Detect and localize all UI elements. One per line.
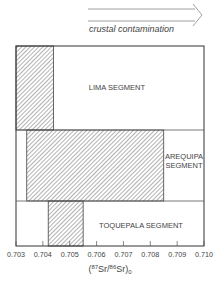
segment-label: AREQUIPASEGMENT (165, 152, 203, 170)
segment-bands: LIMA SEGMENTAREQUIPASEGMENTTOQUEPALA SEG… (16, 46, 204, 246)
x-axis: 0.7030.7040.7050.7060.7070.7080.7090.710 (7, 241, 213, 259)
x-tick-label: 0.704 (34, 250, 52, 259)
x-tick-label: 0.705 (61, 250, 79, 259)
arrow-label: crustal contamination (89, 24, 174, 34)
x-axis-label: (87Sr/86Sr)0 (88, 264, 132, 275)
segment-label: TOQUEPALA SEGMENT (99, 221, 183, 230)
segment-label: LIMA SEGMENT (89, 83, 146, 92)
arrow-head-icon (193, 4, 202, 26)
x-tick-label: 0.706 (88, 250, 106, 259)
strontium-isotope-chart: crustal contamination LIMA SEGMENTAREQUI… (0, 0, 224, 296)
arequipa-segment-range-bar (27, 130, 164, 201)
x-tick-label: 0.703 (7, 250, 25, 259)
x-tick-label: 0.708 (141, 250, 159, 259)
lima-segment-range-bar (16, 46, 54, 130)
x-tick-label: 0.709 (168, 250, 186, 259)
x-tick-label: 0.710 (195, 250, 213, 259)
x-tick-label: 0.707 (114, 250, 132, 259)
crustal-contamination-arrow (88, 4, 202, 26)
toquepala-segment-range-bar (48, 201, 83, 246)
